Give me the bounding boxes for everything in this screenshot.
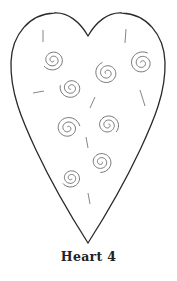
spiral-icon — [100, 116, 119, 132]
dash-mark — [86, 137, 88, 148]
caption-label: Heart 4 — [0, 249, 177, 264]
spiral-icon — [93, 154, 111, 173]
spiral-icon — [60, 81, 80, 98]
spiral-icon — [58, 118, 80, 137]
dash-mark — [90, 97, 95, 108]
dash-mark — [88, 193, 90, 204]
dash-mark — [140, 90, 145, 106]
spiral-icon — [132, 52, 151, 72]
spiral-icon — [96, 63, 116, 83]
spiral-icon — [44, 52, 62, 70]
heart-outline — [11, 13, 165, 243]
dash-mark — [33, 91, 44, 93]
spiral-group — [44, 52, 150, 187]
spiral-icon — [63, 171, 80, 187]
heart-illustration — [0, 0, 177, 281]
dash-mark — [125, 29, 126, 43]
